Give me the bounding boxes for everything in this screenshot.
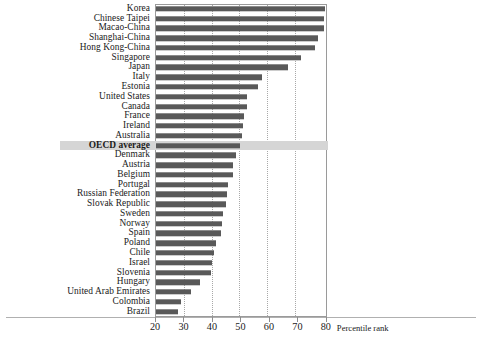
table-row: Estonia (0, 82, 482, 92)
bar (156, 26, 324, 31)
bar (156, 55, 301, 60)
x-tick-label: 40 (207, 322, 217, 332)
table-row: Israel (0, 258, 482, 268)
bar (156, 143, 240, 148)
bar (156, 299, 181, 304)
bar (156, 231, 221, 236)
bar (156, 182, 228, 187)
category-label: Brazil (127, 307, 150, 316)
bar (156, 35, 318, 40)
bar (156, 94, 247, 99)
table-row: Poland (0, 238, 482, 248)
table-row: Shanghai-China (0, 33, 482, 43)
x-tick-label: 70 (292, 322, 302, 332)
table-row: Spain (0, 229, 482, 239)
table-row: Australia (0, 131, 482, 141)
table-row: United Arab Emirates (0, 287, 482, 297)
table-row: United States (0, 92, 482, 102)
table-row: Canada (0, 102, 482, 112)
table-row: Brazil (0, 307, 482, 317)
bar (156, 250, 214, 255)
bar (156, 75, 262, 80)
table-row: Chile (0, 248, 482, 258)
bar (156, 280, 200, 285)
x-tick-label: 20 (150, 322, 160, 332)
bar (156, 260, 212, 265)
table-row: Korea (0, 4, 482, 14)
table-row: Sweden (0, 209, 482, 219)
bar (156, 123, 243, 128)
x-tick-label: 30 (178, 322, 188, 332)
table-row: Colombia (0, 297, 482, 307)
bar (156, 6, 325, 11)
table-row: France (0, 111, 482, 121)
bar (156, 270, 211, 275)
table-row: Belgium (0, 170, 482, 180)
table-row: Russian Federation (0, 190, 482, 200)
table-row: Macao-China (0, 24, 482, 34)
percentile-rank-bar-chart: KoreaChinese TaipeiMacao-ChinaShanghai-C… (0, 0, 482, 341)
bar (156, 104, 247, 109)
table-row: Japan (0, 63, 482, 73)
x-tick-label: 80 (321, 322, 331, 332)
bar (156, 133, 242, 138)
bar (156, 289, 191, 294)
x-axis-title: Percentile rank (337, 324, 389, 333)
table-row: Chinese Taipei (0, 14, 482, 24)
bar (156, 172, 233, 177)
bar (156, 211, 223, 216)
x-tick-label: 50 (235, 322, 245, 332)
bar (156, 45, 315, 50)
table-row: OECD average (0, 141, 482, 151)
bar (156, 241, 216, 246)
table-row: Portugal (0, 180, 482, 190)
bar (156, 201, 226, 206)
bar (156, 16, 324, 21)
bar (156, 84, 258, 89)
bar (156, 153, 236, 158)
table-row: Austria (0, 160, 482, 170)
x-tick-label: 60 (264, 322, 274, 332)
table-row: Norway (0, 219, 482, 229)
table-row: Slovenia (0, 268, 482, 278)
bar (156, 114, 244, 119)
table-row: Singapore (0, 53, 482, 63)
bar (156, 309, 178, 314)
table-row: Hong Kong-China (0, 43, 482, 53)
bar (156, 162, 233, 167)
bar (156, 65, 288, 70)
bar-rows: KoreaChinese TaipeiMacao-ChinaShanghai-C… (0, 4, 482, 317)
table-row: Italy (0, 72, 482, 82)
table-row: Slovak Republic (0, 199, 482, 209)
bar (156, 221, 222, 226)
bar (156, 192, 227, 197)
table-row: Ireland (0, 121, 482, 131)
table-row: Denmark (0, 150, 482, 160)
